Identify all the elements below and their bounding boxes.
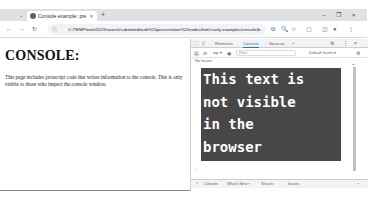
console-toolbar: ▤ ⊘ top ▾ ◉ Filter Default levels ▾ ⚙ <box>191 48 368 58</box>
page-heading: CONSOLE: <box>5 48 80 64</box>
log-levels-dropdown[interactable]: Default levels ▾ <box>309 50 336 56</box>
devtools-tab-bar: ⬚ ▯ Elements Console Sources » ⚙ ⋮ × <box>191 39 368 48</box>
drawer-tab-whats-new[interactable]: What's New × <box>227 181 250 188</box>
console-sidebar-icon[interactable]: ▤ <box>194 50 199 56</box>
profile-avatar-icon[interactable]: ● <box>333 25 337 33</box>
devtools-close-icon[interactable]: × <box>354 40 357 47</box>
console-message-box: This text is not visible in the browser <box>201 68 341 161</box>
devtools-drawer-bar: ⋮ Console What's New × Search Issues × <box>191 179 368 188</box>
forward-icon[interactable]: → <box>19 25 25 33</box>
devtools-more-icon[interactable]: ⋮ <box>343 40 348 47</box>
devtools-settings-icon[interactable]: ⚙ <box>330 40 334 47</box>
drawer-tab-console[interactable]: Console <box>204 181 218 188</box>
scroll-up-arrow-icon[interactable]: ▲ <box>352 62 355 66</box>
address-bar: ← → ↻ ⓘ C:/TEMP/work2023/search/submitte… <box>0 21 367 38</box>
tab-search-chevron-icon[interactable]: ⌄ <box>17 12 24 19</box>
page-bottom-divider <box>0 190 190 191</box>
reload-icon[interactable]: ↻ <box>32 25 37 33</box>
devtools-tab-console[interactable]: Console <box>243 40 259 48</box>
site-info-icon[interactable]: ⓘ <box>52 26 57 33</box>
tab-bar: ⌄ Console example: presentation × + – ❐ … <box>0 9 367 21</box>
device-toolbar-icon[interactable]: ▯ <box>202 40 205 47</box>
window-close-icon[interactable]: × <box>352 11 356 19</box>
extensions-icon[interactable]: ▢ <box>306 25 312 33</box>
browser-tab[interactable]: Console example: presentation × <box>27 11 97 21</box>
console-filter-input[interactable]: Filter <box>236 50 296 56</box>
drawer-close-icon[interactable]: × <box>357 181 359 188</box>
console-prompt-icon[interactable]: › <box>195 167 196 172</box>
clear-console-icon[interactable]: ⊘ <box>203 50 207 56</box>
context-selector[interactable]: top ▾ <box>213 50 222 56</box>
tab-close-icon[interactable]: × <box>90 12 93 20</box>
install-icon[interactable]: ⧉ <box>271 25 275 33</box>
live-expression-eye-icon[interactable]: ◉ <box>227 50 231 56</box>
console-settings-icon[interactable]: ⚙ <box>356 50 360 56</box>
zoom-icon[interactable]: 🔍 <box>281 25 288 33</box>
new-tab-icon[interactable]: + <box>101 11 105 19</box>
url-input[interactable]: ⓘ C:/TEMP/work2023/search/submitted/web%… <box>48 24 266 35</box>
back-icon[interactable]: ← <box>6 25 12 33</box>
page-content: CONSOLE: This page includes javascript c… <box>0 39 190 191</box>
page-paragraph: This page includes javascript code that … <box>5 74 185 89</box>
maximize-icon[interactable]: ❐ <box>336 11 341 19</box>
tab-title: Console example: presentation <box>38 12 86 20</box>
inspect-element-icon[interactable]: ⬚ <box>194 40 199 47</box>
bookmark-star-icon[interactable]: ☆ <box>291 25 296 33</box>
side-panel-icon[interactable]: ◫ <box>322 25 328 33</box>
browser-window: ⌄ Console example: presentation × + – ❐ … <box>0 9 367 191</box>
drawer-tab-issues[interactable]: Issues <box>288 181 299 188</box>
devtools-tab-more[interactable]: » <box>292 40 294 47</box>
minimize-icon[interactable]: – <box>322 11 325 19</box>
console-scrollbar[interactable] <box>353 67 356 171</box>
devtools-panel: ⬚ ▯ Elements Console Sources » ⚙ ⋮ × ▤ ⊘… <box>190 39 367 191</box>
url-text[interactable]: C:/TEMP/work2023/search/submitted/web%20… <box>68 26 263 33</box>
issues-status: No Issues <box>195 59 212 64</box>
devtools-tab-elements[interactable]: Elements <box>215 40 233 47</box>
drawer-menu-icon[interactable]: ⋮ <box>195 181 199 188</box>
browser-menu-icon[interactable]: ⋮ <box>348 25 354 33</box>
console-message-text: This text is not visible in the browser <box>203 68 341 158</box>
devtools-tab-sources[interactable]: Sources <box>269 40 285 47</box>
globe-icon <box>30 13 36 19</box>
drawer-tab-search[interactable]: Search <box>261 181 273 188</box>
